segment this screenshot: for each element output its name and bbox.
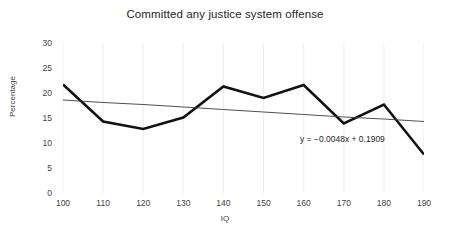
chart-container: Committed any justice system offense Per… [0,0,450,241]
x-axis-tick-label: 150 [244,198,284,208]
series-group [63,85,424,155]
x-axis-tick-label: 190 [404,198,444,208]
y-axis-tick-label: 15 [22,113,52,123]
x-axis-title: IQ [0,214,450,223]
x-axis-tick-label: 180 [364,198,404,208]
x-axis-tick-label: 120 [123,198,163,208]
y-axis-tick-label: 5 [22,163,52,173]
x-axis-tick-label: 100 [43,198,83,208]
y-axis-tick-label: 30 [22,38,52,48]
x-axis-tick-label: 140 [203,198,243,208]
y-axis-tick-label: 0 [22,188,52,198]
y-axis-tick-label: 25 [22,63,52,73]
chart-title: Committed any justice system offense [0,8,450,20]
plot-area [63,43,424,193]
y-axis-title: Percentage [8,42,17,152]
x-axis-tick-label: 160 [284,198,324,208]
y-axis-tick-label: 20 [22,88,52,98]
x-axis-tick-label: 170 [324,198,364,208]
x-axis-tick-label: 110 [83,198,123,208]
y-axis-tick-label: 10 [22,138,52,148]
plot-svg [63,43,424,193]
trendline-equation-label: y = −0.0048x + 0.1909 [300,134,385,144]
x-axis-tick-label: 130 [163,198,203,208]
data-line [63,85,424,155]
